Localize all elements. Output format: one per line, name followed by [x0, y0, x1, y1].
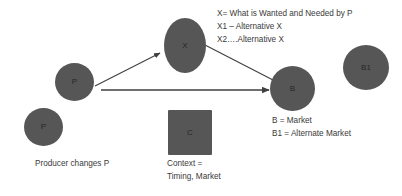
- producer-caption: Producer changes P: [35, 157, 109, 170]
- node-x[interactable]: X: [164, 18, 206, 73]
- context-caption: Context = Timing, Market: [167, 157, 221, 183]
- context-caption-line-2: Timing, Market: [167, 170, 221, 183]
- edge-x-to-b: [205, 45, 273, 80]
- x-legend: X= What is Wanted and Needed by P X1 – A…: [217, 7, 353, 46]
- node-p-upper-label: P: [72, 78, 78, 86]
- node-x-label: X: [182, 42, 188, 50]
- context-caption-line-1: Context =: [167, 157, 221, 170]
- node-p-lower-label: P: [41, 123, 47, 131]
- b-legend-line-1: B = Market: [272, 114, 351, 127]
- b-legend: B = Market B1 = Alternate Market: [272, 114, 351, 140]
- edge-p-to-x: [95, 53, 160, 86]
- node-b1[interactable]: B1: [343, 45, 389, 90]
- b-legend-line-2: B1 = Alternate Market: [272, 127, 351, 140]
- x-legend-line-2: X1 – Alternative X: [217, 20, 353, 33]
- node-b[interactable]: B: [270, 66, 315, 111]
- x-legend-line-1: X= What is Wanted and Needed by P: [217, 7, 353, 20]
- node-c[interactable]: C: [168, 110, 212, 155]
- node-p-upper[interactable]: P: [55, 63, 94, 101]
- node-b1-label: B1: [361, 64, 371, 72]
- node-b-label: B: [290, 85, 296, 93]
- node-c-label: C: [187, 129, 193, 137]
- x-legend-line-3: X2….Alternative X: [217, 33, 353, 46]
- diagram-canvas: P P X B B1 C X= What is Wanted and Neede…: [0, 0, 402, 196]
- node-p-lower[interactable]: P: [24, 108, 63, 146]
